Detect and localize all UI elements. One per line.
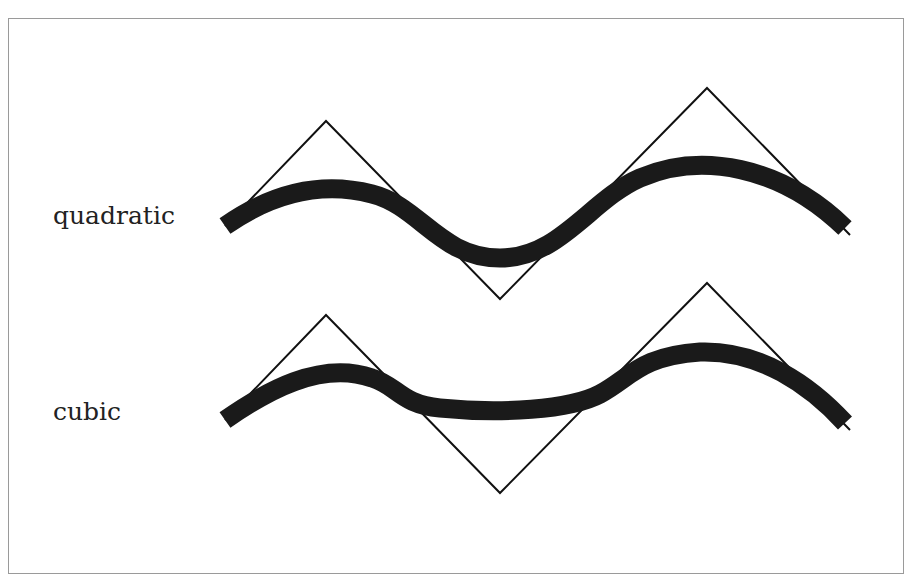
cubic-row xyxy=(225,283,850,493)
cubic-curve xyxy=(225,352,845,423)
quadratic-row xyxy=(225,88,850,299)
cubic-control-polygon xyxy=(225,283,850,493)
quadratic-curve xyxy=(225,165,845,258)
spline-diagram xyxy=(0,0,909,588)
